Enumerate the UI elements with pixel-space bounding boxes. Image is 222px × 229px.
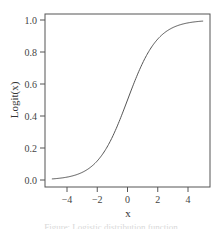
x-tick-label: −2 [92,194,103,205]
x-tick-label: 2 [155,194,160,205]
x-tick-label: 0 [125,194,130,205]
y-tick-label: 1.0 [25,15,38,26]
x-axis-label: x [125,207,131,219]
figure-caption: Figure: Logistic distribution function [44,222,178,229]
x-axis: −4−2024 [62,187,191,205]
y-axis: 0.00.20.40.60.81.0 [25,15,46,186]
y-tick-label: 0.4 [25,111,38,122]
logit-chart: 0.00.20.40.60.81.0 −4−2024 x Logit(x) Fi… [0,0,222,229]
x-tick-label: −4 [62,194,73,205]
y-axis-label: Logit(x) [8,81,21,118]
logistic-curve [52,21,203,179]
y-tick-label: 0.6 [25,79,38,90]
y-tick-label: 0.2 [25,143,38,154]
y-tick-label: 0.0 [25,175,38,186]
y-tick-label: 0.8 [25,47,38,58]
x-tick-label: 4 [186,194,191,205]
